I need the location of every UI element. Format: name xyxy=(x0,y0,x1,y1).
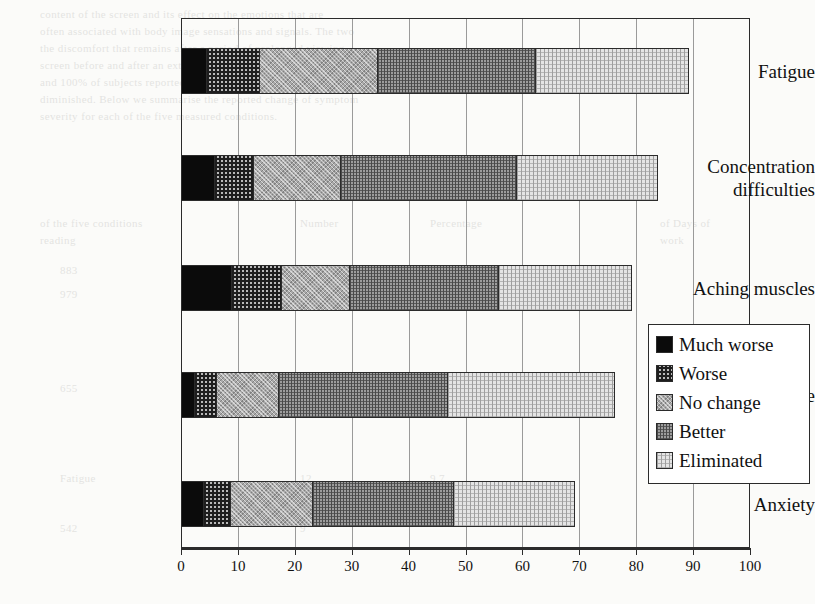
bar-segment-eliminated xyxy=(498,265,632,311)
bar-segment-no-change xyxy=(281,265,349,311)
legend-swatch-worse xyxy=(656,365,673,382)
legend-label: Better xyxy=(679,422,725,441)
bar-segment-eliminated xyxy=(447,372,615,418)
bar-segment-worse xyxy=(206,48,260,94)
legend-swatch-eliminated xyxy=(656,452,673,469)
bar-segment-no-change xyxy=(259,48,378,94)
legend-item-no-change: No change xyxy=(656,388,804,417)
gridline-80 xyxy=(636,19,637,547)
x-tick-label-30: 30 xyxy=(332,558,372,575)
x-tick-label-70: 70 xyxy=(559,558,599,575)
x-tick-label-20: 20 xyxy=(275,558,315,575)
bar-segment-worse xyxy=(194,372,217,418)
legend-label: Eliminated xyxy=(679,451,762,470)
category-label-line: Aching muscles xyxy=(640,277,815,300)
x-tick-70 xyxy=(579,548,580,555)
bar-segment-much-worse xyxy=(181,265,232,311)
category-label-line: Anxiety xyxy=(640,493,815,516)
bar-segment-eliminated xyxy=(535,48,689,94)
x-tick-label-0: 0 xyxy=(161,558,201,575)
x-tick-30 xyxy=(352,548,353,555)
category-label-4: Anxiety xyxy=(640,493,815,516)
legend-swatch-much-worse xyxy=(656,336,673,353)
legend-item-eliminated: Eliminated xyxy=(656,446,804,475)
legend-item-better: Better xyxy=(656,417,804,446)
bar-segment-better xyxy=(312,481,454,527)
x-tick-90 xyxy=(693,548,694,555)
bar-segment-much-worse xyxy=(181,481,204,527)
x-tick-label-40: 40 xyxy=(389,558,429,575)
bar-segment-better xyxy=(340,155,516,201)
x-tick-80 xyxy=(636,548,637,555)
legend-label: Much worse xyxy=(679,335,773,354)
bar-segment-much-worse xyxy=(181,155,215,201)
bar-segment-eliminated xyxy=(453,481,575,527)
x-tick-0 xyxy=(181,548,182,555)
bar-segment-much-worse xyxy=(181,372,195,418)
legend: Much worseWorseNo changeBetterEliminated xyxy=(648,324,810,484)
stacked-bar-1 xyxy=(181,155,657,201)
bar-segment-worse xyxy=(214,155,254,201)
x-tick-label-90: 90 xyxy=(673,558,713,575)
x-tick-label-50: 50 xyxy=(446,558,486,575)
stacked-bar-2 xyxy=(181,265,631,311)
legend-item-worse: Worse xyxy=(656,359,804,388)
bar-segment-no-change xyxy=(216,372,279,418)
bar-segment-much-worse xyxy=(181,48,207,94)
stacked-bar-4 xyxy=(181,481,574,527)
category-label-2: Aching muscles xyxy=(640,277,815,300)
bar-segment-worse xyxy=(231,265,282,311)
bar-segment-better xyxy=(278,372,449,418)
bar-segment-no-change xyxy=(230,481,313,527)
legend-label: No change xyxy=(679,393,761,412)
x-tick-60 xyxy=(522,548,523,555)
bar-segment-worse xyxy=(203,481,231,527)
x-tick-label-10: 10 xyxy=(218,558,258,575)
category-label-line: Concentration xyxy=(640,155,815,178)
category-label-1: Concentrationdifficulties xyxy=(640,155,815,201)
legend-swatch-no-change xyxy=(656,394,673,411)
stacked-bar-3 xyxy=(181,372,614,418)
x-tick-100 xyxy=(750,548,751,555)
bar-segment-better xyxy=(377,48,536,94)
x-tick-label-60: 60 xyxy=(502,558,542,575)
legend-item-much-worse: Much worse xyxy=(656,330,804,359)
x-tick-40 xyxy=(409,548,410,555)
x-tick-50 xyxy=(466,548,467,555)
bar-segment-no-change xyxy=(253,155,341,201)
x-tick-label-100: 100 xyxy=(730,558,770,575)
stacked-bar-chart: FatigueConcentrationdifficultiesAching m… xyxy=(0,0,815,604)
category-label-line: difficulties xyxy=(640,178,815,201)
bar-segment-eliminated xyxy=(516,155,658,201)
legend-label: Worse xyxy=(679,364,727,383)
bar-segment-better xyxy=(349,265,500,311)
x-tick-10 xyxy=(238,548,239,555)
x-tick-20 xyxy=(295,548,296,555)
stacked-bar-0 xyxy=(181,48,688,94)
x-tick-label-80: 80 xyxy=(616,558,656,575)
legend-swatch-better xyxy=(656,423,673,440)
